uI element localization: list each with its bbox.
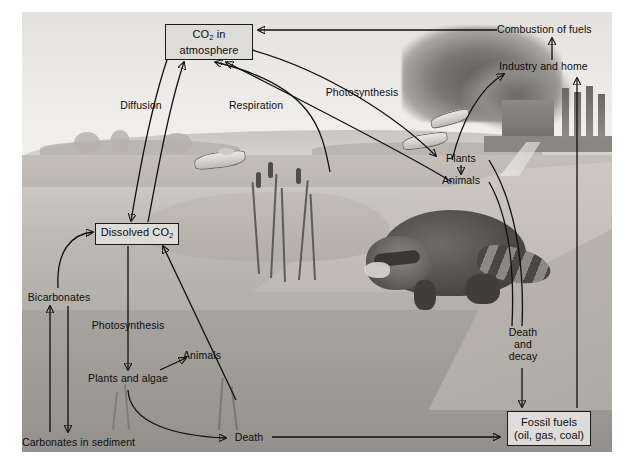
- label-plants-and-algae: Plants and algae: [80, 372, 176, 384]
- arrow-plants-to-death-decay: [489, 160, 522, 326]
- box-dissolved-co2[interactable]: Dissolved CO2: [95, 223, 179, 245]
- label-carbonates-in-sediment: Carbonates in sediment: [22, 436, 154, 448]
- label-photosynthesis-water: Photosynthesis: [76, 319, 180, 331]
- figure-canvas: CO2 in atmosphere Dissolved CO2 Fossil f…: [0, 0, 627, 467]
- label-diffusion: Diffusion: [96, 99, 186, 111]
- label-animals-water: Animals: [172, 349, 232, 361]
- arrow-plants-algae-to-death: [128, 390, 226, 438]
- arrow-diffusion-down: [131, 60, 167, 221]
- death-and-decay-line2: and: [498, 338, 548, 350]
- label-animals-land: Animals: [429, 174, 493, 186]
- label-plants-land: Plants: [431, 152, 491, 164]
- death-and-decay-line1: Death: [498, 326, 548, 338]
- label-respiration: Respiration: [210, 99, 302, 111]
- arrow-factory-to-industry: [452, 74, 504, 160]
- label-photosynthesis-air: Photosynthesis: [310, 86, 414, 98]
- box-fossil-line2: (oil, gas, coal): [514, 429, 584, 442]
- subscript-2: 2: [169, 231, 173, 240]
- label-industry-and-home: Industry and home: [499, 60, 623, 72]
- box-atmosphere-line2: atmosphere: [179, 44, 238, 57]
- box-fossil-fuels[interactable]: Fossil fuels (oil, gas, coal): [507, 411, 591, 446]
- label-death-and-decay: Death and decay: [498, 326, 548, 362]
- box-atmosphere-line1: CO2 in: [193, 28, 226, 44]
- box-fossil-line1: Fossil fuels: [521, 416, 577, 429]
- label-bicarbonates: Bicarbonates: [18, 291, 100, 303]
- death-and-decay-line3: decay: [498, 350, 548, 362]
- label-combustion-of-fuels: Combustion of fuels: [497, 23, 627, 35]
- arrow-diffusion-up: [148, 62, 184, 222]
- arrow-bicarbonates-to-dissolved: [58, 232, 93, 288]
- arrow-respiration-aquatic: [215, 62, 330, 172]
- arrow-respiration-land: [226, 62, 452, 182]
- box-dissolved-line1: Dissolved CO2: [101, 226, 174, 242]
- label-death-water: Death: [226, 431, 272, 443]
- box-co2-in-atmosphere[interactable]: CO2 in atmosphere: [165, 24, 253, 60]
